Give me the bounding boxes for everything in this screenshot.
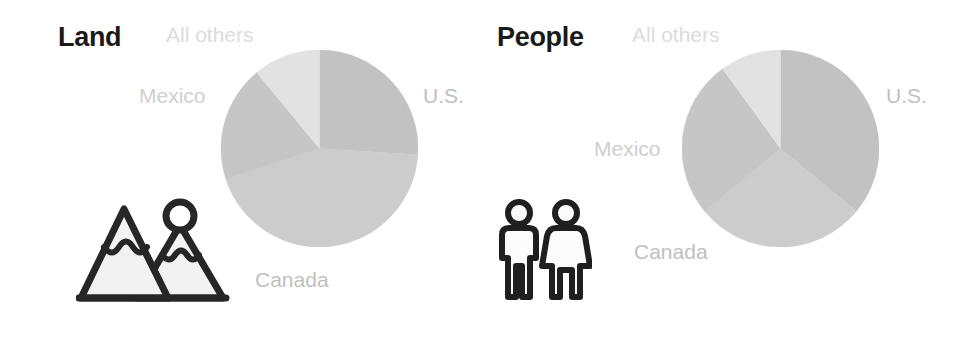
pie-label-land-mexico: Mexico [139, 85, 206, 106]
mountains-icon [76, 197, 236, 305]
pie-label-people-mexico: Mexico [594, 138, 661, 159]
panel-title-land: Land [58, 24, 121, 51]
panel-land: Land All others Mexico U.S. Canada [0, 0, 485, 337]
pie-chart-people [682, 50, 879, 247]
land-pie-slice-u-s [320, 50, 419, 155]
pie-label-people-us: U.S. [886, 85, 927, 106]
man-woman-icon [496, 196, 592, 306]
woman-figure [542, 202, 590, 297]
pie-label-people-canada: Canada [634, 241, 708, 262]
pie-label-land-all-others: All others [166, 24, 254, 45]
pie-label-people-all-others: All others [632, 24, 720, 45]
panel-title-people: People [497, 24, 584, 51]
figure-canvas: Land All others Mexico U.S. Canada [0, 0, 969, 337]
panel-people: People All others Mexico U.S. Canada [484, 0, 969, 337]
pie-label-land-us: U.S. [423, 85, 464, 106]
man-figure [502, 202, 536, 297]
pie-label-land-canada: Canada [255, 269, 329, 290]
pie-chart-land [221, 50, 418, 247]
